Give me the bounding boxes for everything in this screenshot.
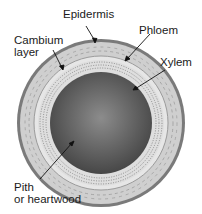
label-cambium-line1: Cambium (14, 34, 63, 46)
label-phloem: Phloem (139, 24, 178, 36)
label-pith-line2: or heartwood (14, 193, 81, 205)
label-epidermis: Epidermis (63, 8, 114, 20)
label-xylem: Xylem (160, 56, 192, 68)
label-pith-line1: Pith (14, 181, 34, 193)
label-cambium-line2: layer (14, 46, 39, 58)
